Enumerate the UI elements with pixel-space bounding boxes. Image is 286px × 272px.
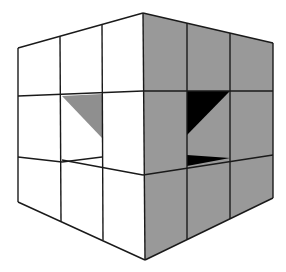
left-face (18, 13, 145, 260)
cube-figure (0, 0, 286, 272)
cube-diagram (0, 0, 286, 272)
right-face (143, 13, 273, 260)
